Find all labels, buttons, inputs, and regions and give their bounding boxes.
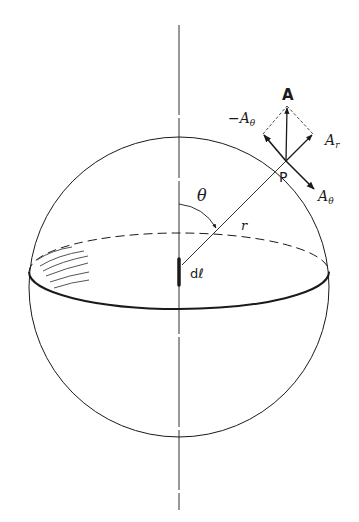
component-parallelogram [263,106,313,134]
label-Atheta: Aθ [316,188,334,206]
theta-arc [179,204,216,228]
radius-line [182,161,286,265]
vector-A [286,108,287,161]
label-r: r [241,218,248,233]
label-neg-Atheta: −Aθ [228,110,256,128]
label-P: P [279,169,287,185]
label-A: A [282,86,294,104]
label-theta: θ [197,186,207,205]
label-Ar: Ar [323,132,340,150]
vector-Atheta [286,161,314,189]
sphere-diagram: A −Aθ Ar Aθ P θ r dℓ [0,0,359,522]
label-dl: dℓ [190,266,204,281]
shading-hatch [37,247,89,288]
vector-Ar [286,135,312,161]
vector-neg-Atheta [264,135,286,161]
